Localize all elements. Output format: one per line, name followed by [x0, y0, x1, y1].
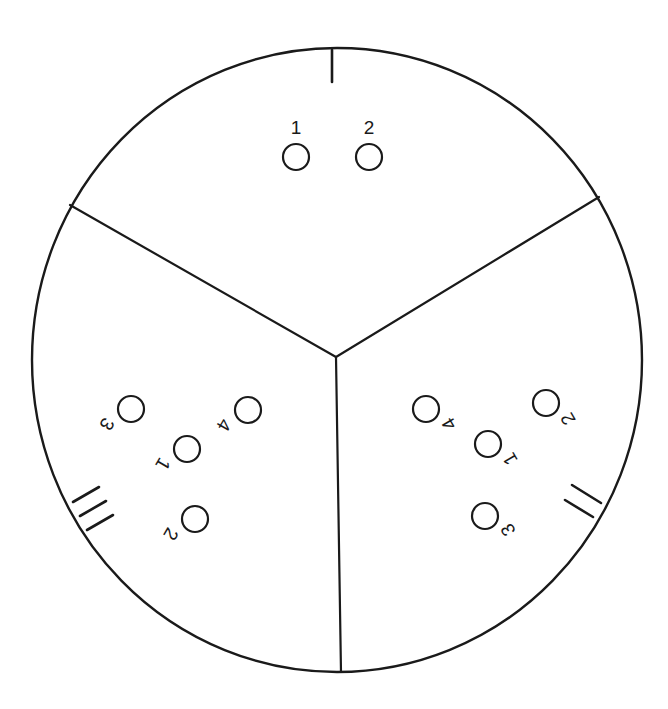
section-2: 4123 — [413, 390, 601, 540]
numeral-stroke — [565, 500, 593, 517]
roman-numeral-marker-ii — [565, 485, 601, 517]
hole-circle — [413, 396, 439, 422]
divider-right — [336, 197, 599, 357]
section-1: 12 — [283, 50, 382, 170]
hole-label: 2 — [159, 524, 182, 544]
sectioned-circle-diagram: 1241233142 — [0, 0, 668, 709]
hole-circle — [533, 390, 559, 416]
hole-4: 4 — [212, 397, 261, 435]
hole-1: 1 — [475, 431, 522, 469]
hole-1: 1 — [283, 117, 309, 171]
numeral-stroke — [80, 501, 106, 516]
hole-label: 1 — [498, 449, 521, 469]
hole-label: 1 — [151, 454, 174, 474]
hole-1: 1 — [151, 436, 200, 474]
hole-circle — [235, 397, 261, 423]
hole-2: 2 — [356, 117, 382, 171]
divider-left — [70, 205, 336, 357]
hole-label: 3 — [95, 414, 118, 434]
numeral-stroke — [73, 487, 99, 502]
hole-4: 4 — [413, 396, 461, 434]
hole-circle — [182, 506, 208, 532]
hole-circle — [174, 436, 200, 462]
hole-label: 4 — [212, 415, 236, 435]
diagram-canvas: 1241233142 — [0, 0, 668, 709]
hole-circle — [356, 144, 382, 170]
divider-bottom — [336, 357, 341, 672]
numeral-stroke — [572, 485, 601, 503]
hole-circle — [283, 144, 309, 170]
hole-label: 2 — [364, 117, 375, 138]
section-dividers — [70, 197, 599, 672]
hole-label: 2 — [556, 409, 579, 429]
hole-circle — [472, 503, 498, 529]
hole-2: 2 — [159, 506, 208, 544]
hole-3: 3 — [95, 396, 144, 434]
hole-2: 2 — [533, 390, 580, 429]
section-3: 3142 — [73, 396, 261, 544]
hole-3: 3 — [472, 503, 520, 540]
hole-circle — [475, 431, 501, 457]
hole-label: 3 — [496, 520, 519, 540]
roman-numeral-marker-iii — [73, 487, 113, 530]
hole-label: 4 — [437, 414, 461, 434]
hole-label: 1 — [291, 117, 302, 138]
numeral-stroke — [87, 515, 113, 530]
hole-circle — [118, 396, 144, 422]
